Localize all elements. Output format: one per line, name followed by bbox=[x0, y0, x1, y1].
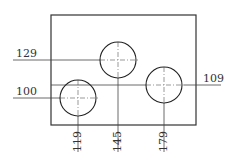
dimension-label-129: 129 bbox=[16, 47, 37, 60]
dimension-label-100: 100 bbox=[16, 85, 37, 98]
dimension-label-109: 109 bbox=[203, 72, 224, 85]
dimension-label-145: 145 bbox=[111, 131, 124, 152]
dimension-label-179: 179 bbox=[157, 131, 170, 152]
dimension-label-119: 119 bbox=[71, 131, 84, 152]
technical-drawing: 129 100 109 119 145 179 bbox=[0, 0, 230, 166]
